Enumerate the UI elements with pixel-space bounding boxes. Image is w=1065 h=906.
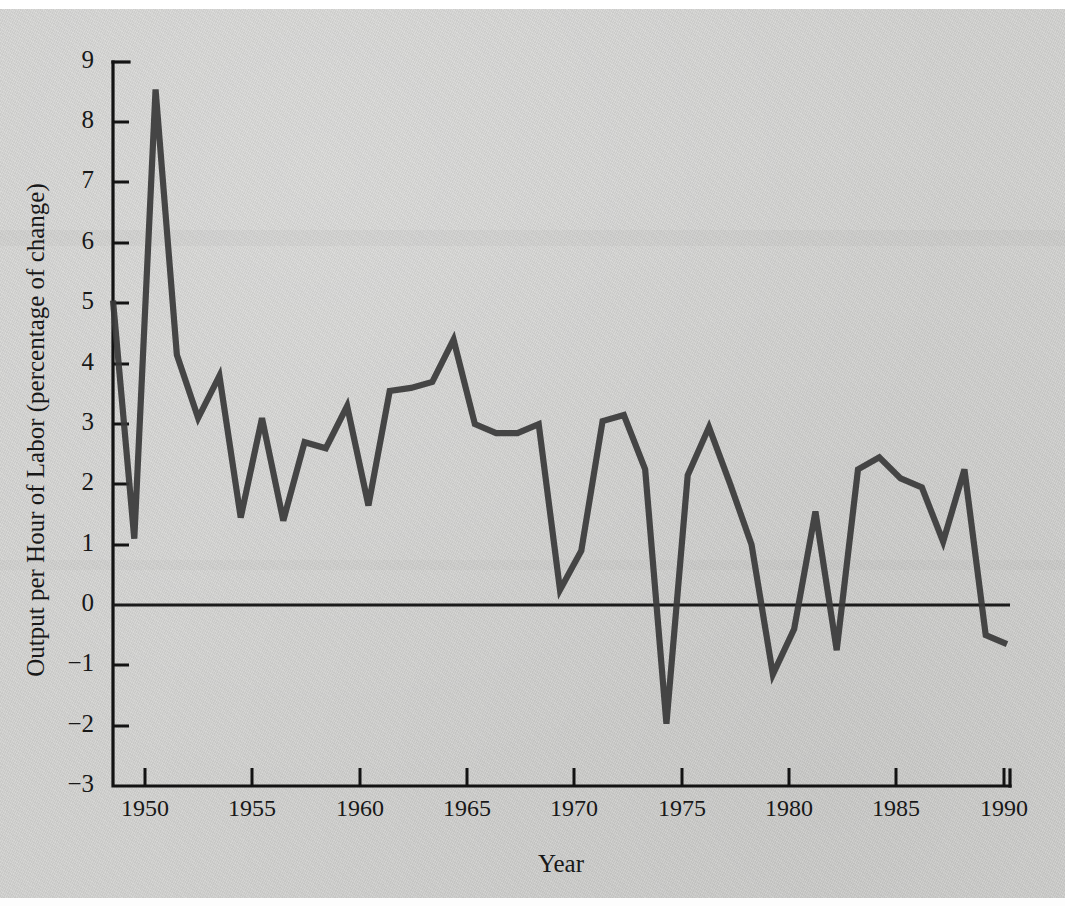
line-chart: Output per Hour of Labor (percentage of …	[0, 0, 1065, 906]
y-tick-label: 9	[82, 46, 95, 73]
y-tick-label: 6	[82, 227, 95, 254]
y-tick-label: −1	[67, 649, 94, 676]
x-tick-label: 1950	[121, 795, 169, 821]
y-tick-label: 7	[82, 166, 95, 193]
x-tick-label: 1990	[980, 795, 1028, 821]
y-tick-label: 2	[82, 468, 95, 495]
x-tick-label: 1985	[872, 795, 920, 821]
y-tick-label: 8	[82, 106, 95, 133]
x-tick-label: 1980	[765, 795, 813, 821]
figure-page: Output per Hour of Labor (percentage of …	[0, 0, 1065, 906]
y-tick-label: 4	[82, 348, 95, 375]
y-tick-label: −3	[67, 770, 94, 797]
x-tick-label: 1970	[550, 795, 598, 821]
x-tick-label: 1975	[658, 795, 706, 821]
data-series-line	[113, 89, 1007, 723]
x-tick-label: 1965	[443, 795, 491, 821]
x-ticks	[145, 768, 1004, 786]
y-tick-label: 3	[82, 408, 95, 435]
y-tick-label: 0	[82, 589, 95, 616]
y-tick-label: −2	[67, 710, 94, 737]
x-tick-label: 1955	[228, 795, 276, 821]
x-axis-title: Year	[538, 850, 585, 877]
axis-spine	[113, 62, 1010, 786]
y-tick-label: 5	[82, 287, 95, 314]
x-tick-labels: 1950 1955 1960 1965 1970 1975 1980 1985 …	[121, 795, 1028, 821]
x-tick-label: 1960	[336, 795, 384, 821]
y-tick-labels: 9 8 7 6 5 4 3 2 1 0 −1 −2 −3	[67, 46, 94, 797]
y-axis-title: Output per Hour of Labor (percentage of …	[22, 183, 50, 677]
y-tick-label: 1	[82, 529, 95, 556]
